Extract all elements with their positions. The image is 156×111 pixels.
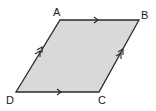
vertex-label-a: A <box>53 6 61 18</box>
vertex-label-b: B <box>141 9 148 21</box>
parallelogram-diagram: A B C D <box>0 0 156 111</box>
vertex-label-c: C <box>98 94 106 106</box>
vertex-label-d: D <box>6 94 14 106</box>
